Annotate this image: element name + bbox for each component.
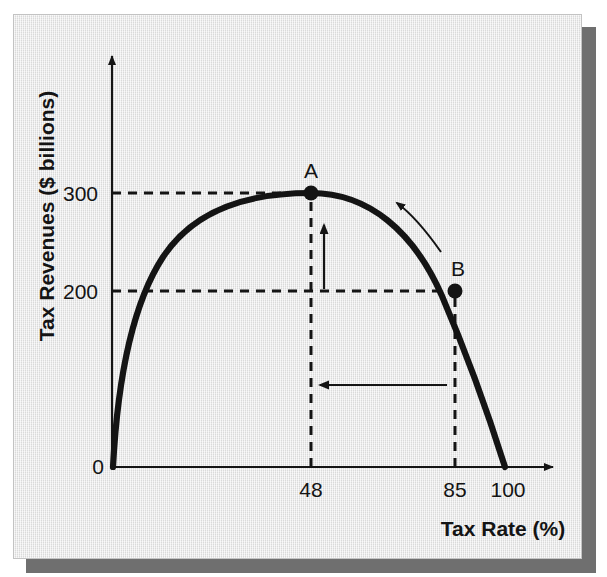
y-axis-title: Tax Revenues ($ billions) bbox=[35, 91, 58, 342]
laffer-curve-group bbox=[113, 193, 505, 467]
data-point-b bbox=[448, 284, 463, 299]
x-axis-title: Tax Rate (%) bbox=[441, 517, 565, 540]
y-tick-label-200: 200 bbox=[63, 280, 98, 303]
x-tick-label-100: 100 bbox=[490, 478, 525, 501]
annotation-arrows-group bbox=[320, 203, 447, 385]
point-a-label: A bbox=[304, 159, 318, 182]
point-b-label: B bbox=[451, 257, 465, 280]
laffer-curve-path bbox=[113, 193, 505, 467]
data-point-a bbox=[304, 186, 319, 201]
y-tick-label-300: 300 bbox=[63, 182, 98, 205]
movement-along-curve-arrow bbox=[397, 203, 441, 252]
y-tick-label-0: 0 bbox=[92, 455, 104, 478]
laffer-curve-chart: A B 300 200 0 48 85 100 Tax Revenues ($ … bbox=[0, 0, 607, 577]
figure-page: A B 300 200 0 48 85 100 Tax Revenues ($ … bbox=[0, 0, 607, 577]
x-tick-label-48: 48 bbox=[299, 478, 322, 501]
x-tick-label-85: 85 bbox=[443, 478, 466, 501]
